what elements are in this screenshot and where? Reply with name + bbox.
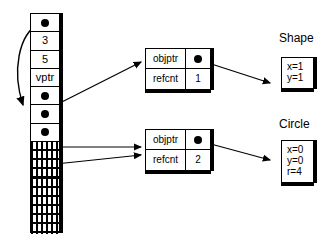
stack-cell-label-2: 5 xyxy=(42,54,48,65)
handle-box-2-refcnt-value: 2 xyxy=(186,150,210,170)
circle-object-box: x=0 y=0 r=4 xyxy=(281,140,314,183)
handle-box-1: objptr refcnt 1 xyxy=(145,48,211,90)
circle-field-x: x=0 xyxy=(287,144,309,155)
handle-box-2-row-refcnt: refcnt 2 xyxy=(146,150,210,170)
stack-column: 3 5 vptr xyxy=(30,13,60,233)
shape-field-x: x=1 xyxy=(287,61,309,72)
handle-box-1-objptr-pointer-dot xyxy=(186,49,210,68)
stack-cell-label-3: vptr xyxy=(36,72,54,83)
handle-box-2: objptr refcnt 2 xyxy=(145,129,211,171)
handle-box-2-row-objptr: objptr xyxy=(146,130,210,150)
stack-cell-5 xyxy=(31,105,59,123)
handle-box-2-objptr-label: objptr xyxy=(146,130,186,149)
circle-field-y: y=0 xyxy=(287,155,309,166)
stack-cell-11 xyxy=(31,215,59,233)
stack-cell-9 xyxy=(31,179,59,197)
stack-cell-4 xyxy=(31,87,59,105)
shape-object-box: x=1 y=1 xyxy=(281,57,314,89)
stack-cell-2: 5 xyxy=(31,51,59,69)
arrow-stack5-to-handle1 xyxy=(46,62,141,110)
handle-box-1-refcnt-value: 1 xyxy=(186,69,210,89)
stack-cell-10 xyxy=(31,197,59,215)
handle-box-1-row-objptr: objptr xyxy=(146,49,210,69)
shape-object-title: Shape xyxy=(279,32,314,44)
circle-object-title: Circle xyxy=(279,118,310,130)
handle-box-2-refcnt-label: refcnt xyxy=(146,150,186,170)
stack-cell-7 xyxy=(31,142,59,160)
handle-box-1-objptr-label: objptr xyxy=(146,49,186,68)
object-reference-diagram: 3 5 vptr objptr refcnt 1 xyxy=(0,0,328,245)
handle-box-1-refcnt-label: refcnt xyxy=(146,69,186,89)
stack-cell-3: vptr xyxy=(31,69,59,87)
handle-box-1-row-refcnt: refcnt 1 xyxy=(146,69,210,89)
handle-box-2-objptr-pointer-dot xyxy=(186,130,210,149)
arrow-stack7-to-handle2 xyxy=(46,155,141,165)
shape-field-y: y=1 xyxy=(287,72,309,83)
stack-cell-8 xyxy=(31,160,59,178)
stack-cell-label-1: 3 xyxy=(42,35,48,46)
stack-cell-6 xyxy=(31,124,59,142)
stack-cell-0 xyxy=(31,14,59,32)
stack-cell-1: 3 xyxy=(31,32,59,50)
circle-field-r: r=4 xyxy=(287,166,309,177)
